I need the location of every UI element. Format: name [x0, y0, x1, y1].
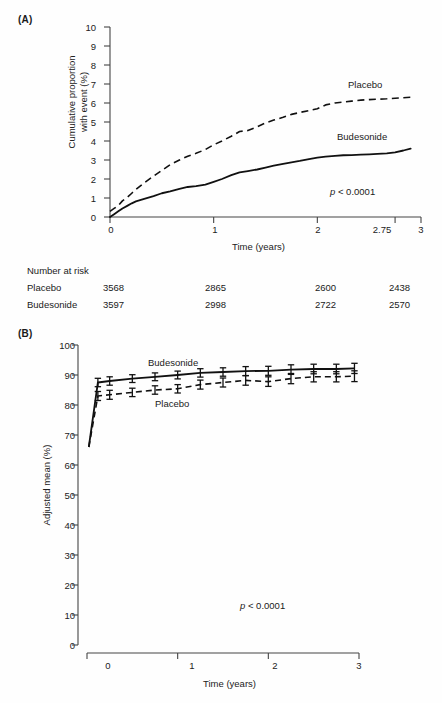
- panel-b-axes: [72, 345, 359, 659]
- panel-b-plot: [0, 0, 442, 703]
- panel-b-series: [89, 363, 358, 447]
- figure-container: (A) Cumulative proportion with event (%)…: [0, 0, 442, 703]
